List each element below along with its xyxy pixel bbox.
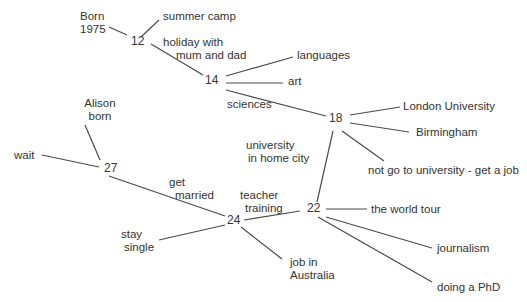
label-not-go-to-university: not go to university - get a job <box>368 164 519 177</box>
label-holiday-with-mum-and-dad: holiday with mum and dad <box>163 36 246 62</box>
label-the-world-tour: the world tour <box>371 203 441 216</box>
label-journalism: journalism <box>437 242 489 255</box>
label-line: Born <box>80 10 106 23</box>
label-art: art <box>288 75 301 88</box>
edge-n18-birmingham <box>350 123 409 132</box>
label-line: sciences <box>227 98 272 111</box>
node-age-22: 22 <box>307 202 320 215</box>
label-line: not go to university - get a job <box>368 164 519 177</box>
label-line: art <box>288 75 301 88</box>
label-summer-camp: summer camp <box>163 10 236 23</box>
label-line: born <box>78 110 122 123</box>
label-line: London University <box>403 100 495 113</box>
label-line: single <box>121 241 154 254</box>
label-wait: wait <box>14 149 34 162</box>
label-doing-a-phd: doing a PhD <box>437 281 500 294</box>
label-sciences: sciences <box>227 98 272 111</box>
label-stay-single: stay single <box>121 228 154 254</box>
label-line: teacher <box>240 189 283 202</box>
label-line: mum and dad <box>163 49 246 62</box>
label-languages: languages <box>297 49 350 62</box>
node-age-14: 14 <box>205 74 218 87</box>
node-age-24: 24 <box>227 214 240 227</box>
label-teacher-training: teacher training <box>240 189 283 215</box>
edge-n24-stay-single <box>159 225 225 240</box>
node-age-27: 27 <box>104 162 117 175</box>
edge-n22-journalism <box>326 217 432 248</box>
label-birmingham: Birmingham <box>416 126 477 139</box>
label-line: stay <box>121 228 154 241</box>
edge-n27-wait <box>42 155 99 167</box>
label-job-in-australia: job in Australia <box>290 256 335 282</box>
node-age-12: 12 <box>131 35 144 48</box>
label-line: languages <box>297 49 350 62</box>
label-line: in home city <box>246 152 309 165</box>
label-line: Alison <box>78 97 122 110</box>
edge-born1975-n12 <box>109 27 127 35</box>
label-line: holiday with <box>163 36 246 49</box>
edge-n18-not-go-university <box>342 131 384 161</box>
label-line: the world tour <box>371 203 441 216</box>
node-age-18: 18 <box>329 112 342 125</box>
label-line: journalism <box>437 242 489 255</box>
label-get-married: get married <box>169 176 214 202</box>
edge-n27-alison-born <box>85 125 100 160</box>
label-line: married <box>169 189 214 202</box>
label-line: Australia <box>290 269 335 282</box>
label-line: get <box>169 176 214 189</box>
label-line: wait <box>14 149 34 162</box>
edge-n18-london-university <box>350 107 400 115</box>
label-line: doing a PhD <box>437 281 500 294</box>
label-born-1975: Born 1975 <box>80 10 106 36</box>
label-line: job in <box>290 256 335 269</box>
edge-n24-job-in-australia <box>241 227 282 259</box>
edge-n22-doing-a-phd <box>318 217 432 282</box>
label-line: 1975 <box>80 23 106 36</box>
life-choices-diagram: 12 14 18 22 24 27 Born 1975 summer camp … <box>0 0 527 302</box>
label-line: summer camp <box>163 10 236 23</box>
label-line: training <box>240 202 283 215</box>
label-line: Birmingham <box>416 126 477 139</box>
label-london-university: London University <box>403 100 495 113</box>
label-alison-born: Alison born <box>78 97 122 123</box>
edge-n18-n22 <box>317 131 333 202</box>
label-line: university <box>246 139 309 152</box>
label-university-in-home-city: university in home city <box>246 139 309 165</box>
